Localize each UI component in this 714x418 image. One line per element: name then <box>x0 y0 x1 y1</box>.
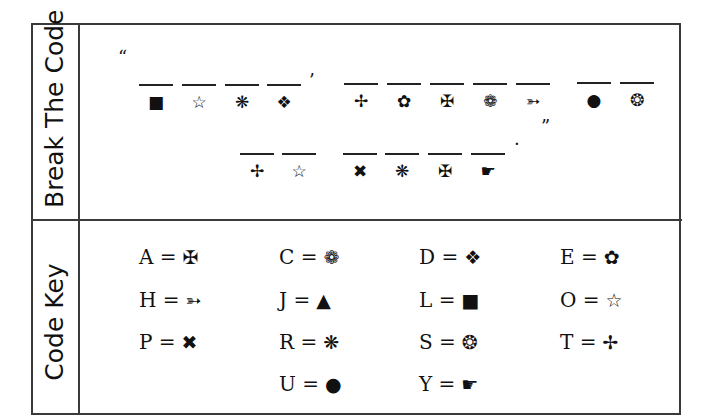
letter-blank[interactable]: ✢ <box>344 83 378 127</box>
blank-line <box>516 83 550 85</box>
open-quote: “ <box>118 46 127 67</box>
pointer-shape-icon: ➳ <box>516 89 550 113</box>
key-entry-e: E =✿ <box>560 244 620 270</box>
outline-star-icon: ☆ <box>182 90 216 114</box>
blank-line <box>267 84 301 86</box>
key-entry-y: Y =☛ <box>419 371 478 397</box>
outline-star-icon: ☆ <box>282 159 316 183</box>
key-entry-u: U =● <box>279 371 342 397</box>
blank-line <box>343 153 377 155</box>
letter-blank[interactable]: ❋ <box>385 153 419 197</box>
blank-line <box>577 82 611 84</box>
asterisk-icon: ❋ <box>225 90 259 114</box>
key-entry-d: D =❖ <box>419 244 481 270</box>
four-point-cross-icon: ✢ <box>240 159 274 183</box>
pointing-hand-icon: ☛ <box>461 373 478 395</box>
blank-line <box>182 84 216 86</box>
blank-line <box>471 153 505 155</box>
blank-line <box>428 153 462 155</box>
four-point-cross-icon: ✢ <box>344 89 378 113</box>
puzzle-section-label: Break The Code <box>40 38 70 208</box>
key-entry-s: S =❂ <box>419 329 478 355</box>
blank-line <box>387 83 421 85</box>
five-petal-flower-icon: ✿ <box>387 89 421 113</box>
heavy-x-icon: ✖ <box>182 331 198 353</box>
maltese-cross-icon: ✠ <box>428 159 462 183</box>
diamond-cluster-icon: ❖ <box>267 90 301 114</box>
maltese-cross-icon: ✠ <box>430 89 464 113</box>
blank-line <box>344 83 378 85</box>
heavy-x-icon: ✖ <box>343 159 377 183</box>
blank-line <box>473 83 507 85</box>
black-circle-icon: ● <box>577 88 611 112</box>
blank-line <box>282 153 316 155</box>
key-entry-a: A =✠ <box>139 244 199 270</box>
ring-icon: ❂ <box>620 88 654 112</box>
letter-blank[interactable]: ■ <box>139 84 173 128</box>
key-entry-o: O =☆ <box>560 287 623 313</box>
key-entry-j: J =▲ <box>279 287 331 313</box>
outline-star-icon: ☆ <box>606 289 623 311</box>
black-square-icon: ■ <box>461 289 479 311</box>
blank-line <box>385 153 419 155</box>
letter-blank[interactable]: ✠ <box>428 153 462 197</box>
letter-blank[interactable]: ✿ <box>387 83 421 127</box>
letter-blank[interactable]: ☆ <box>182 84 216 128</box>
black-circle-icon: ● <box>325 373 342 395</box>
five-petal-flower-icon: ✿ <box>604 246 620 268</box>
blank-line <box>430 83 464 85</box>
diamond-cluster-icon: ❖ <box>464 246 481 268</box>
letter-blank[interactable]: ❋ <box>225 84 259 128</box>
period: . <box>514 128 520 149</box>
letter-blank[interactable]: ❁ <box>473 83 507 127</box>
four-point-cross-icon: ✢ <box>602 331 618 353</box>
pointing-hand-icon: ☛ <box>471 159 505 183</box>
black-triangle-icon: ▲ <box>316 289 331 311</box>
key-entry-h: H =➳ <box>139 287 202 313</box>
letter-blank[interactable]: ✠ <box>430 83 464 127</box>
pointer-shape-icon: ➳ <box>186 289 202 311</box>
letter-blank[interactable]: ❂ <box>620 82 654 126</box>
blank-line <box>225 84 259 86</box>
section-divider <box>31 219 682 221</box>
letter-blank[interactable]: ➳ <box>516 83 550 127</box>
letter-blank[interactable]: ● <box>577 82 611 126</box>
eight-petal-flower-icon: ❁ <box>473 89 507 113</box>
key-section-label: Code Key <box>40 257 70 387</box>
blank-line <box>139 84 173 86</box>
key-entry-r: R =❋ <box>279 329 339 355</box>
blank-line <box>240 153 274 155</box>
eight-petal-flower-icon: ❁ <box>323 246 339 268</box>
letter-blank[interactable]: ✖ <box>343 153 377 197</box>
key-entry-l: L =■ <box>419 287 479 313</box>
key-entry-c: C =❁ <box>279 244 339 270</box>
asterisk-icon: ❋ <box>323 331 339 353</box>
ring-icon: ❂ <box>462 331 478 353</box>
asterisk-icon: ❋ <box>385 159 419 183</box>
letter-blank[interactable]: ❖ <box>267 84 301 128</box>
key-entry-p: P =✖ <box>139 329 198 355</box>
letter-blank[interactable]: ☛ <box>471 153 505 197</box>
apostrophe: ’ <box>309 70 315 91</box>
black-square-icon: ■ <box>139 90 173 114</box>
letter-blank[interactable]: ☆ <box>282 153 316 197</box>
key-entry-t: T =✢ <box>560 329 618 355</box>
maltese-cross-icon: ✠ <box>183 246 199 268</box>
blank-line <box>620 82 654 84</box>
letter-blank[interactable]: ✢ <box>240 153 274 197</box>
